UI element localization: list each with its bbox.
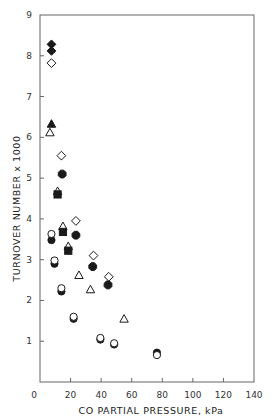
data-point-diamond-open xyxy=(57,151,66,160)
x-tick-label: 140 xyxy=(245,390,262,400)
x-tick-label: 80 xyxy=(157,390,169,400)
data-point-diamond-open xyxy=(104,272,113,281)
data-point-triangle-open xyxy=(75,271,83,279)
y-axis-title: TURNOVER NUMBER x 1000 xyxy=(11,135,22,282)
x-axis-ticks: 020406080100120140 xyxy=(31,378,263,400)
data-point-circle-open xyxy=(58,285,65,292)
x-tick-label: 40 xyxy=(95,390,107,400)
x-axis-title: CO PARTIAL PRESSURE, kPa xyxy=(78,405,223,416)
y-axis-ticks: 123456789 xyxy=(26,10,44,346)
y-tick-label: 1 xyxy=(26,336,32,346)
data-point-triangle-open xyxy=(46,128,54,136)
data-point-circle-open xyxy=(153,351,160,358)
y-tick-label: 4 xyxy=(26,214,32,224)
data-point-square-filled xyxy=(65,247,72,254)
x-tick-label: 100 xyxy=(184,390,201,400)
data-point-square-filled xyxy=(54,191,61,198)
data-point-octagon-filled xyxy=(89,263,97,271)
data-point-diamond-open xyxy=(47,59,56,68)
data-point-octagon-filled xyxy=(104,281,112,289)
data-point-triangle-filled xyxy=(47,120,55,128)
scatter-chart: 020406080100120140 123456789 CO PARTIAL … xyxy=(0,0,272,419)
y-tick-label: 7 xyxy=(26,92,32,102)
y-tick-label: 6 xyxy=(26,132,32,142)
data-point-octagon-filled xyxy=(72,231,80,239)
data-point-diamond-filled xyxy=(47,46,56,55)
data-point-circle-open xyxy=(97,334,104,341)
data-points xyxy=(46,40,161,359)
y-tick-label: 8 xyxy=(26,51,32,61)
data-point-circle-open xyxy=(48,230,55,237)
y-tick-label: 5 xyxy=(26,173,32,183)
y-tick-label: 2 xyxy=(26,295,32,305)
data-point-square-filled xyxy=(59,228,66,235)
data-point-triangle-open xyxy=(120,315,128,323)
x-tick-label: 60 xyxy=(126,390,138,400)
x-tick-label: 120 xyxy=(215,390,232,400)
plot-frame xyxy=(40,15,254,382)
x-tick-label: 20 xyxy=(65,390,77,400)
data-point-diamond-open xyxy=(89,251,98,260)
y-tick-label: 3 xyxy=(26,255,32,265)
x-tick-label: 0 xyxy=(31,390,37,400)
data-point-diamond-open xyxy=(72,217,81,226)
data-point-circle-open xyxy=(111,340,118,347)
data-point-circle-open xyxy=(51,257,58,264)
data-point-circle-open xyxy=(70,313,77,320)
data-point-octagon-filled xyxy=(58,170,66,178)
data-point-triangle-open xyxy=(86,285,94,293)
y-tick-label: 9 xyxy=(26,10,32,20)
